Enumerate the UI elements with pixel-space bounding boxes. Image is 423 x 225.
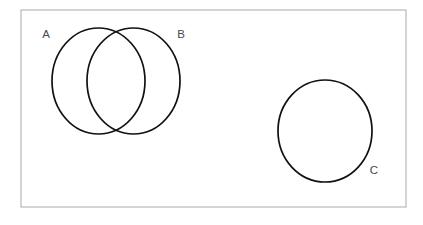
set-label-a: A [42,28,50,40]
diagram-canvas: A B C [0,0,423,225]
venn-diagram: A B C [0,0,423,225]
set-label-b: B [177,28,185,40]
diagram-border [21,10,406,207]
set-label-c: C [370,164,378,176]
